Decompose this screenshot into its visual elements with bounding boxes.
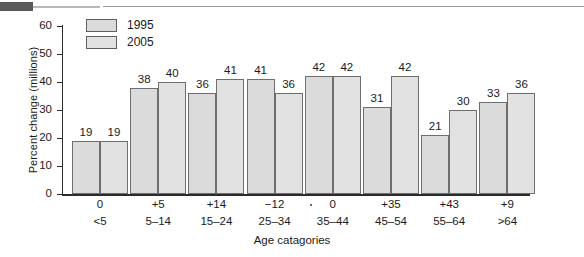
y-tick-label: 20 bbox=[12, 132, 52, 144]
bar bbox=[305, 76, 333, 194]
x-category-label: >64 bbox=[472, 215, 542, 227]
bar-value-label: 41 bbox=[215, 65, 245, 77]
bar-value-label: 38 bbox=[129, 74, 159, 86]
y-tick-mark bbox=[57, 110, 63, 111]
bar bbox=[247, 79, 275, 194]
bar bbox=[275, 93, 303, 194]
bar-value-label: 19 bbox=[71, 127, 101, 139]
bar bbox=[188, 93, 216, 194]
bar bbox=[363, 107, 391, 194]
bar bbox=[72, 141, 100, 194]
bar bbox=[158, 82, 186, 194]
bar-value-label: 36 bbox=[506, 79, 536, 91]
y-tick-mark bbox=[57, 26, 63, 27]
print-speck bbox=[310, 204, 312, 206]
x-percent-change-label: +5 bbox=[128, 198, 188, 210]
bar-value-label: 36 bbox=[274, 79, 304, 91]
x-percent-change-label: +9 bbox=[477, 198, 537, 210]
y-tick-mark bbox=[57, 166, 63, 167]
x-axis-title: Age catagories bbox=[0, 234, 584, 246]
x-percent-change-label: −12 bbox=[245, 198, 305, 210]
x-axis-line bbox=[62, 194, 530, 196]
y-tick-mark bbox=[57, 138, 63, 139]
bar-value-label: 40 bbox=[157, 68, 187, 80]
bar bbox=[507, 93, 535, 194]
bar bbox=[130, 88, 158, 194]
bar bbox=[421, 135, 449, 194]
bar bbox=[333, 76, 361, 194]
bar-value-label: 42 bbox=[390, 62, 420, 74]
legend-label-2005: 2005 bbox=[127, 36, 154, 49]
bar bbox=[100, 141, 128, 194]
y-tick-label: 40 bbox=[12, 76, 52, 88]
y-tick-label: 10 bbox=[12, 160, 52, 172]
x-percent-change-label: +14 bbox=[186, 198, 246, 210]
bar bbox=[479, 102, 507, 194]
bar-value-label: 41 bbox=[246, 65, 276, 77]
y-tick-mark bbox=[57, 54, 63, 55]
bar-value-label: 21 bbox=[420, 121, 450, 133]
x-percent-change-label: +35 bbox=[361, 198, 421, 210]
y-tick-label: 50 bbox=[12, 48, 52, 60]
legend-swatch-2005 bbox=[86, 36, 117, 49]
bar bbox=[216, 79, 244, 194]
x-percent-change-label: +43 bbox=[419, 198, 479, 210]
legend-swatch-1995 bbox=[86, 19, 117, 32]
legend-label-1995: 1995 bbox=[127, 19, 154, 32]
bar-value-label: 30 bbox=[448, 96, 478, 108]
y-tick-mark bbox=[57, 194, 63, 195]
bar-value-label: 42 bbox=[304, 62, 334, 74]
bar-value-label: 19 bbox=[99, 127, 129, 139]
y-tick-label: 30 bbox=[12, 104, 52, 116]
bar-value-label: 31 bbox=[362, 93, 392, 105]
y-tick-mark bbox=[57, 82, 63, 83]
bar bbox=[391, 76, 419, 194]
bar-value-label: 42 bbox=[332, 62, 362, 74]
bar-value-label: 33 bbox=[478, 88, 508, 100]
bar-value-label: 36 bbox=[187, 79, 217, 91]
bar bbox=[449, 110, 477, 194]
y-tick-label: 0 bbox=[12, 188, 52, 200]
x-percent-change-label: 0 bbox=[70, 198, 130, 210]
bar-chart-figure: Percent change (millions) 0102030405060 … bbox=[0, 0, 584, 257]
y-tick-label: 60 bbox=[12, 20, 52, 32]
